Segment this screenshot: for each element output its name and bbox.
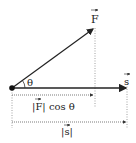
displacement-label: s [124,76,129,87]
magnitude-label: |s| [61,126,73,138]
projection-label: |F| cos θ [32,101,75,113]
work-projection-diagram: θ F s |F| cos θ |s| [0,0,136,143]
force-label: F [91,13,99,26]
angle-label: θ [27,77,33,88]
origin-point [9,85,15,91]
angle-arc [23,81,26,89]
force-vector [12,29,93,88]
